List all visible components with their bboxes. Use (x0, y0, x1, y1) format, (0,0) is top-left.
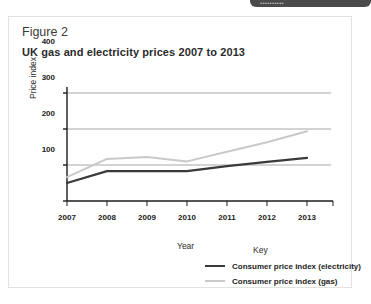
legend-label-gas: Consumer price index (gas) (232, 277, 337, 286)
y-tick-label-400: 400 (29, 37, 55, 46)
y-tick-label-100: 100 (29, 145, 55, 154)
legend-label-electricity: Consumer price index (electricity) (232, 262, 361, 271)
line-chart (9, 73, 353, 233)
legend-item-gas: Consumer price index (gas) (205, 275, 337, 287)
x-tick-label-2013: 2013 (290, 213, 324, 222)
top-status-bar: •••••••••• (250, 0, 371, 7)
legend-swatch-electricity-icon (205, 265, 225, 267)
x-tick-label-2012: 2012 (250, 213, 284, 222)
x-tick-label-2007: 2007 (50, 213, 84, 222)
x-tick-label-2009: 2009 (130, 213, 164, 222)
figure-title: UK gas and electricity prices 2007 to 20… (22, 46, 245, 58)
x-axis-title: Year (177, 241, 194, 251)
chart-axes (63, 87, 333, 206)
chart-plot-area: 100 200 300 400 2007 2008 2009 2010 2011… (9, 73, 353, 233)
top-status-bar-text: •••••••••• (260, 0, 284, 6)
legend-heading: Key (253, 245, 268, 255)
y-tick-label-200: 200 (29, 109, 55, 118)
y-tick-label-300: 300 (29, 73, 55, 82)
legend-swatch-gas-icon (205, 280, 225, 282)
x-tick-label-2008: 2008 (90, 213, 124, 222)
x-tick-label-2010: 2010 (170, 213, 204, 222)
legend-item-electricity: Consumer price index (electricity) (205, 260, 361, 272)
gridlines (67, 93, 331, 165)
x-tick-label-2011: 2011 (210, 213, 244, 222)
figure-card: Figure 2 UK gas and electricity prices 2… (8, 16, 352, 288)
